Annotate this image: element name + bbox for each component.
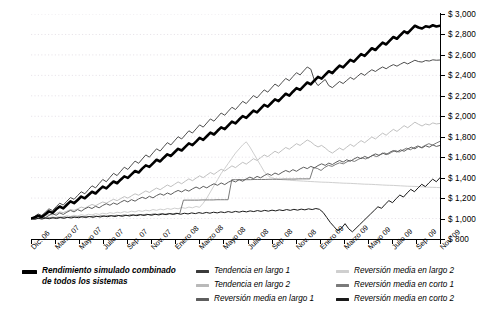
y-tick [441,157,445,158]
legend-swatch-icon [336,284,349,287]
y-tick [441,178,445,179]
chart-root: $ 800$ 1,000$ 1,200$ 1,400$ 1,600$ 1,800… [0,0,500,332]
legend-item-label: Rendimiento simulado combinado de todos … [42,266,176,287]
y-tick [441,96,445,97]
legend-swatch-icon [336,298,349,301]
chart-legend: Rendimiento simulado combinado de todos … [0,266,500,332]
y-tick [441,34,445,35]
legend-swatch-icon [196,298,209,301]
y-tick-label: $ 2,000 [448,112,476,121]
y-tick-label: $ 1,000 [448,214,476,223]
legend-item[interactable]: Reversión media en corto 2 [336,294,500,305]
series-line [31,25,440,218]
legend-column-0: Rendimiento simulado combinado de todos … [22,266,197,291]
legend-item[interactable]: Reversión media en corto 1 [336,280,500,291]
y-tick-label: $ 2,600 [448,50,476,59]
y-tick-label: $ 1,200 [448,194,476,203]
legend-item[interactable]: Rendimiento simulado combinado de todos … [22,266,197,287]
plot-area [31,14,440,239]
legend-item-label: Reversión media en corto 2 [354,294,454,305]
legend-swatch-icon [336,270,349,273]
legend-item-label: Tendencia en largo 2 [214,280,290,291]
y-tick [441,75,445,76]
legend-column-1: Tendencia en largo 1Tendencia en largo 2… [196,266,336,308]
y-tick-label: $ 2,800 [448,30,476,39]
legend-swatch-icon [22,270,37,274]
y-axis-line [440,13,441,240]
y-tick [441,137,445,138]
y-tick-label: $ 1,600 [448,153,476,162]
y-tick [441,116,445,117]
y-tick-label: $ 3,000 [448,10,476,19]
series-lines [31,14,440,239]
legend-swatch-icon [196,270,209,273]
y-tick [441,55,445,56]
legend-item-label: Reversión media en corto 1 [354,280,454,291]
legend-item[interactable]: Tendencia en largo 1 [196,266,336,277]
legend-item-label: Reversión media en largo 1 [214,294,314,305]
legend-column-2: Reversión media en largo 2Reversión medi… [336,266,500,308]
legend-item[interactable]: Reversión media en largo 2 [336,266,500,277]
y-tick-label: $ 1,400 [448,173,476,182]
legend-swatch-icon [196,284,209,287]
legend-item[interactable]: Tendencia en largo 2 [196,280,336,291]
y-tick [441,14,445,15]
y-tick-label: $ 2,200 [448,91,476,100]
y-tick-label: $ 1,800 [448,132,476,141]
legend-item-label: Tendencia en largo 1 [214,266,290,277]
series-line [31,122,440,218]
y-tick-label: $ 2,400 [448,71,476,80]
series-line [31,60,440,219]
legend-item[interactable]: Reversión media en largo 1 [196,294,336,305]
legend-item-label: Reversión media en largo 2 [354,266,454,277]
y-tick [441,219,445,220]
y-tick [441,198,445,199]
